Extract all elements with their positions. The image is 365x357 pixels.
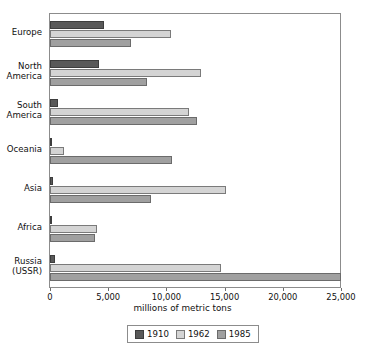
bar — [50, 186, 226, 194]
category-label: Africa — [0, 223, 42, 233]
bar — [50, 60, 99, 68]
x-axis-tick-label: 5,000 — [96, 292, 120, 302]
legend-item: 1962 — [176, 329, 210, 339]
bar — [50, 273, 341, 281]
bar — [50, 156, 172, 164]
bar — [50, 108, 189, 116]
x-axis-title: millions of metric tons — [0, 303, 365, 313]
legend-swatch-icon — [135, 330, 144, 339]
legend-label: 1910 — [147, 329, 169, 339]
x-axis-tick-mark — [108, 288, 109, 291]
bar — [50, 39, 131, 47]
bar — [50, 30, 171, 38]
legend-label: 1962 — [188, 329, 210, 339]
bar — [50, 117, 197, 125]
category-label: North America — [0, 62, 42, 81]
bar — [50, 69, 201, 77]
chart-legend: 191019621985 — [127, 325, 259, 343]
x-axis-tick-mark — [341, 288, 342, 291]
bar — [50, 138, 52, 146]
category-label: South America — [0, 101, 42, 120]
category-label: Europe — [0, 28, 42, 38]
category-axis-labels: EuropeNorth AmericaSouth AmericaOceaniaA… — [0, 13, 46, 288]
x-axis-tick-label: 0 — [47, 292, 52, 302]
bar — [50, 195, 151, 203]
bar — [50, 21, 104, 29]
legend-item: 1985 — [217, 329, 251, 339]
x-axis-tick-mark — [50, 288, 51, 291]
bar — [50, 225, 97, 233]
x-axis-tick-label: 20,000 — [268, 292, 297, 302]
bar — [50, 177, 53, 185]
x-axis-tick-mark — [225, 288, 226, 291]
bar — [50, 99, 58, 107]
bar — [50, 264, 221, 272]
category-label: Asia — [0, 184, 42, 194]
bars-layer — [50, 14, 341, 287]
legend-swatch-icon — [217, 330, 226, 339]
bar — [50, 78, 147, 86]
legend-item: 1910 — [135, 329, 169, 339]
legend-label: 1985 — [229, 329, 251, 339]
x-axis-tick-label: 10,000 — [152, 292, 181, 302]
bar — [50, 147, 64, 155]
x-axis-tick-label: 25,000 — [326, 292, 355, 302]
x-axis-tick-mark — [166, 288, 167, 291]
x-axis-tick-mark — [283, 288, 284, 291]
x-axis-tick-label: 15,000 — [210, 292, 239, 302]
category-label: Russia (USSR) — [0, 257, 42, 276]
legend-swatch-icon — [176, 330, 185, 339]
bar — [50, 255, 55, 263]
category-label: Oceania — [0, 145, 42, 155]
bar-chart: EuropeNorth AmericaSouth AmericaOceaniaA… — [0, 0, 365, 357]
bar — [50, 216, 52, 224]
bar — [50, 234, 95, 242]
